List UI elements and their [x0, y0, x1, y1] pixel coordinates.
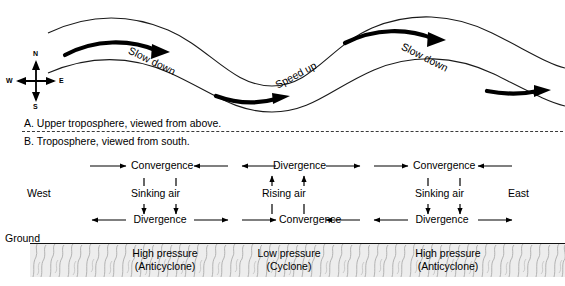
lower-row-label-right: Divergence	[415, 213, 469, 225]
compass-rose-icon	[16, 60, 56, 102]
pressure-cell-right-line1: High pressure	[393, 247, 503, 260]
east-label: East	[508, 187, 529, 199]
flow-arrow-middle	[216, 93, 290, 104]
lower-row-label-middle: Convergence	[279, 213, 337, 225]
pressure-cell-middle-line1: Low pressure	[234, 247, 344, 260]
pressure-cell-right: High pressure (Anticyclone)	[393, 247, 503, 273]
vertical-motion-label-left: Sinking air	[131, 187, 180, 199]
compass-south-label: S	[33, 103, 38, 110]
pressure-cell-left-line1: High pressure	[110, 247, 220, 260]
lower-row-label-left: Divergence	[133, 213, 187, 225]
jet-stream-wave-graphic	[0, 0, 565, 122]
pressure-cell-right-line2: (Anticyclone)	[393, 260, 503, 273]
upper-row-label-right: Convergence	[413, 159, 471, 171]
west-label: West	[27, 187, 51, 199]
upper-row-label-left: Convergence	[131, 159, 189, 171]
caption-panel-a: A. Upper troposphere, viewed from above.	[24, 117, 221, 129]
pressure-cell-left-line2: (Anticyclone)	[110, 260, 220, 273]
caption-panel-b: B. Troposphere, viewed from south.	[24, 135, 190, 147]
pressure-cell-middle-line2: (Cyclone)	[234, 260, 344, 273]
compass-east-label: E	[59, 77, 64, 84]
pressure-cell-middle: Low pressure (Cyclone)	[234, 247, 344, 273]
jet-stream-diagram: N S W E Slow down Speed up Slow down A. …	[0, 0, 565, 286]
compass-north-label: N	[33, 50, 38, 57]
upper-row-label-middle: Divergence	[273, 159, 325, 171]
panel-a-upper-troposphere: N S W E Slow down Speed up Slow down	[0, 0, 565, 122]
vertical-motion-label-middle: Rising air	[262, 187, 306, 199]
pressure-cell-left: High pressure (Anticyclone)	[110, 247, 220, 273]
panel-divider	[22, 131, 563, 132]
compass-west-label: W	[6, 77, 13, 84]
vertical-motion-label-right: Sinking air	[415, 187, 464, 199]
